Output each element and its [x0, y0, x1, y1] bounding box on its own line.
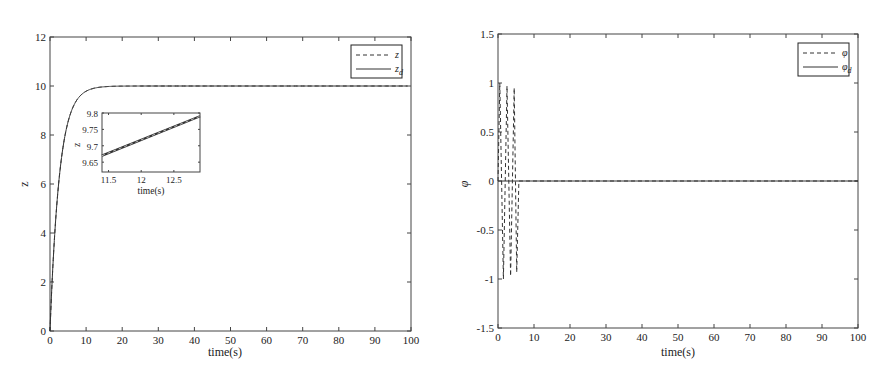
y-tick-label: 12	[35, 31, 46, 43]
x-tick-label: 50	[673, 331, 685, 343]
inset-y-axis-label: z	[72, 143, 82, 147]
y-tick-label: 8	[41, 129, 47, 141]
x-tick-label: 12	[137, 175, 146, 185]
y-tick-label: 1	[489, 77, 495, 89]
z-inset-chart: 11.51212.59.659.79.759.8time(s)z	[72, 109, 200, 197]
z-tracking-chart: 0102030405060708090100024681012time(s)zz…	[17, 31, 420, 359]
x-tick-label: 10	[81, 334, 93, 346]
y-tick-label: 9.75	[82, 125, 98, 135]
y-tick-label: 6	[41, 178, 47, 190]
figure-canvas: 0102030405060708090100024681012time(s)zz…	[0, 0, 885, 380]
inset-x-axis-label: time(s)	[138, 186, 165, 197]
x-tick-label: 90	[369, 334, 381, 346]
x-tick-label: 90	[817, 331, 829, 343]
y-tick-label: 1.5	[480, 28, 494, 40]
x-tick-label: 80	[333, 334, 345, 346]
y-tick-label: 9.7	[87, 142, 99, 152]
phi-tracking-chart: 0102030405060708090100-1.5-1-0.500.511.5…	[457, 28, 867, 359]
y-axis-label: z	[17, 181, 31, 186]
x-tick-label: 100	[403, 334, 420, 346]
x-tick-label: 20	[117, 334, 129, 346]
x-tick-label: 0	[495, 331, 501, 343]
x-tick-label: 0	[47, 334, 53, 346]
y-tick-label: 10	[35, 80, 47, 92]
y-tick-label: 9.8	[87, 109, 99, 119]
legend-label: z	[394, 49, 399, 60]
y-tick-label: -1.5	[477, 322, 495, 334]
x-tick-label: 30	[601, 331, 613, 343]
y-tick-label: 2	[41, 276, 47, 288]
y-tick-label: 9.65	[82, 158, 98, 168]
x-tick-label: 30	[153, 334, 165, 346]
x-tick-label: 10	[529, 331, 541, 343]
x-tick-label: 12.5	[166, 175, 182, 185]
y-tick-label: -1	[485, 273, 494, 285]
x-tick-label: 70	[745, 331, 757, 343]
y-tick-label: 4	[41, 227, 47, 239]
x-tick-label: 60	[261, 334, 273, 346]
x-axis-label: time(s)	[208, 345, 242, 359]
y-tick-label: -0.5	[477, 224, 495, 236]
x-tick-label: 11.5	[101, 175, 117, 185]
y-tick-label: 0.5	[480, 126, 494, 138]
y-tick-label: 0	[41, 325, 47, 337]
y-axis-label: φ	[457, 180, 471, 187]
x-tick-label: 70	[297, 334, 309, 346]
x-tick-label: 60	[709, 331, 721, 343]
x-tick-label: 20	[565, 331, 577, 343]
x-axis-label: time(s)	[661, 345, 695, 359]
x-tick-label: 40	[637, 331, 649, 343]
y-tick-label: 0	[489, 175, 495, 187]
x-tick-label: 100	[850, 331, 867, 343]
x-tick-label: 80	[781, 331, 793, 343]
x-tick-label: 40	[189, 334, 201, 346]
legend-label: φ	[842, 47, 848, 58]
